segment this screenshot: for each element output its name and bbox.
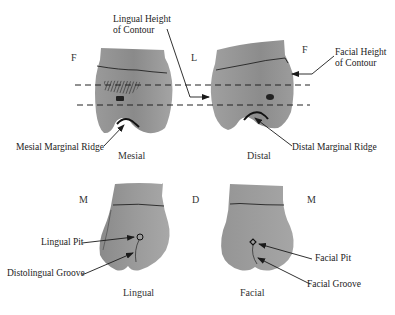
lingual-view-orient-right: D	[192, 194, 199, 205]
view-label-lingual: Lingual	[123, 287, 154, 298]
label-mesial-marginal-ridge: Mesial Marginal Ridge	[16, 142, 104, 153]
facial-view-orient-right: M	[307, 194, 316, 205]
label-lingual-height-of-contour: Lingual Height of Contour	[113, 14, 171, 36]
facial-view-tooth	[221, 184, 294, 271]
view-label-facial: Facial	[240, 287, 264, 298]
mesial-view-tooth	[95, 48, 173, 133]
lingual-hoc-leader	[167, 29, 209, 97]
distal-view-tooth	[211, 40, 294, 130]
label-distal-marginal-ridge: Distal Marginal Ridge	[292, 142, 377, 153]
lingual-view-tooth	[100, 183, 170, 271]
label-distolingual-groove: Distolingual Groove	[7, 268, 85, 279]
label-facial-groove: Facial Groove	[307, 279, 361, 290]
facial-hoc-leader	[292, 56, 334, 74]
label-facial-height-of-contour: Facial Height of Contour	[335, 47, 386, 69]
mesial-contact-dot	[116, 96, 124, 101]
lingual-view-orient-left: M	[79, 194, 88, 205]
label-lingual-pit: Lingual Pit	[41, 237, 84, 248]
distal-contact-dot	[266, 94, 274, 100]
view-label-distal: Distal	[247, 150, 271, 161]
label-facial-pit: Facial Pit	[315, 253, 351, 264]
mesial-view-orient-left: F	[71, 52, 77, 63]
distal-view-orient-right: F	[302, 44, 308, 55]
mesial-view-orient-right: L	[191, 52, 197, 63]
view-label-mesial: Mesial	[118, 150, 145, 161]
